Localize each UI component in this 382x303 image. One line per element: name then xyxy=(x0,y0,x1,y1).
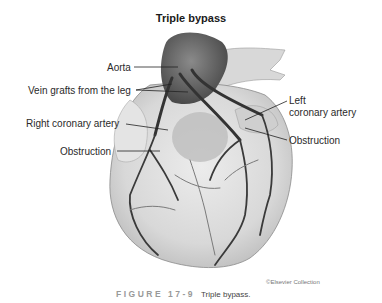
image-credit: ©Elsevier Collection xyxy=(266,279,320,285)
figure-number: FIGURE 17-9 xyxy=(116,289,195,299)
label-right-coronary-artery: Right coronary artery xyxy=(26,118,119,129)
label-left-coronary-line2: coronary artery xyxy=(289,107,356,118)
heart-illustration xyxy=(0,0,382,303)
caption-text: Triple bypass. xyxy=(201,290,251,299)
label-aorta: Aorta xyxy=(107,62,131,73)
label-obstruction-right: Obstruction xyxy=(60,146,111,157)
label-vein-grafts: Vein grafts from the leg xyxy=(28,85,131,96)
figure-caption: FIGURE 17-9Triple bypass. xyxy=(116,289,251,299)
label-obstruction-left: Obstruction xyxy=(289,135,340,146)
label-left-coronary-line1: Left xyxy=(289,95,306,106)
